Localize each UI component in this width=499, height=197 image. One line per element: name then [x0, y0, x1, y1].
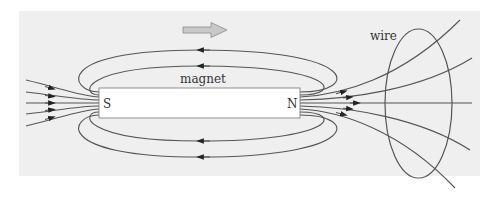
wire-label: wire [370, 29, 397, 43]
magnet-label: magnet [180, 72, 226, 86]
bar-magnet [99, 88, 300, 118]
north-pole-label: N [287, 97, 298, 111]
south-pole-label: S [103, 97, 111, 111]
magnet-wire-diagram: S N magnet wire [0, 0, 499, 197]
